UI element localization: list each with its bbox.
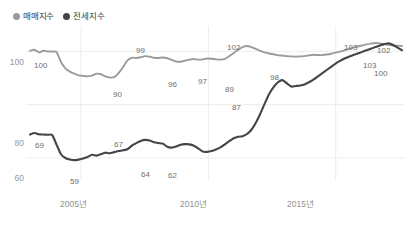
legend-label-lease-index: 전세지수 — [73, 12, 104, 21]
legend-item-sale-index[interactable]: 매매지수 — [13, 12, 54, 21]
y-axis-tick-100: 100 — [2, 58, 24, 67]
data-label-sale-index-3: 96 — [168, 81, 177, 89]
series-lines — [30, 43, 402, 160]
data-label-lease-index-9: 64 — [141, 171, 150, 179]
data-label-lease-index-12: 89 — [225, 86, 234, 94]
x-axis-tick-2005년: 2005년 — [60, 200, 87, 209]
data-label-lease-index-6: 69 — [35, 142, 44, 150]
data-label-lease-index-17: 100 — [374, 70, 387, 78]
y-axis-tick-80: 80 — [2, 139, 24, 148]
data-label-lease-index-13: 98 — [270, 74, 279, 82]
data-label-lease-index-8: 67 — [114, 141, 123, 149]
legend-label-sale-index: 매매지수 — [23, 12, 54, 21]
line-chart: 매매지수 전세지수 10080602005년2010년2015년10090999… — [0, 0, 410, 227]
chart-legend: 매매지수 전세지수 — [13, 9, 104, 23]
legend-dot-lease-index — [63, 13, 70, 20]
x-axis-tick-2010년: 2010년 — [180, 200, 207, 209]
series-line-lease-index — [30, 43, 402, 160]
data-label-sale-index-4: 97 — [198, 78, 207, 86]
y-axis-tick-60: 60 — [2, 174, 24, 183]
data-label-lease-index-10: 62 — [168, 172, 177, 180]
data-label-sale-index-0: 100 — [34, 62, 47, 70]
data-label-lease-index-7: 59 — [70, 178, 79, 186]
data-label-lease-index-14: 103 — [344, 44, 357, 52]
data-label-sale-index-5: 102 — [227, 44, 240, 52]
data-label-sale-index-1: 90 — [113, 91, 122, 99]
legend-item-lease-index[interactable]: 전세지수 — [63, 12, 104, 21]
data-label-sale-index-2: 99 — [136, 47, 145, 55]
legend-dot-sale-index — [13, 13, 20, 20]
x-axis-tick-2015년: 2015년 — [287, 200, 314, 209]
data-label-lease-index-11: 87 — [232, 104, 241, 112]
data-label-sale-index-15: 102 — [377, 47, 390, 55]
